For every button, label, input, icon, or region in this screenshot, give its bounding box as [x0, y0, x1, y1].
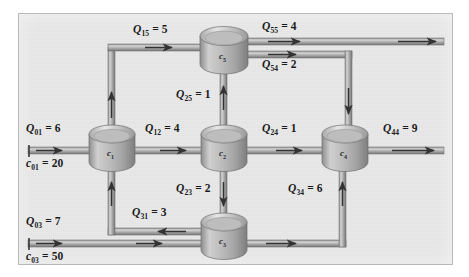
flow-label-q31: Q31 = 3: [132, 206, 167, 221]
flow-label-q55: Q55 = 4: [262, 20, 297, 35]
tank-label-c4: c4: [340, 148, 347, 160]
reactor-tanks: [89, 27, 368, 260]
flow-label-q23: Q23 = 2: [176, 182, 211, 197]
flow-label-q25: Q25 = 1: [176, 88, 211, 103]
flow-label-c01: c01 = 20: [26, 157, 63, 172]
flow-label-q24: Q24 = 1: [262, 122, 297, 137]
tank-label-c1: c1: [107, 148, 114, 160]
flow-label-q01: Q01 = 6: [26, 122, 61, 137]
flow-label-q34: Q34 = 6: [288, 182, 323, 197]
flow-label-q12: Q12 = 4: [145, 122, 180, 137]
tank-label-c3: c3: [219, 236, 226, 248]
flow-label-q15: Q15 = 5: [133, 23, 168, 38]
flow-label-q44: Q44 = 9: [383, 122, 418, 137]
flow-label-q03: Q03 = 7: [26, 215, 61, 230]
figure-canvas: c1 c2 c3 c4 c5 Q01 = 6 c01 = 20 Q03 = 7 …: [0, 0, 469, 277]
flow-network-svg: [0, 0, 469, 277]
flow-label-q54: Q54 = 2: [262, 58, 297, 73]
flow-label-c03: c03 = 50: [26, 250, 63, 265]
tank-label-c2: c2: [219, 148, 226, 160]
tank-label-c5: c5: [219, 51, 226, 63]
